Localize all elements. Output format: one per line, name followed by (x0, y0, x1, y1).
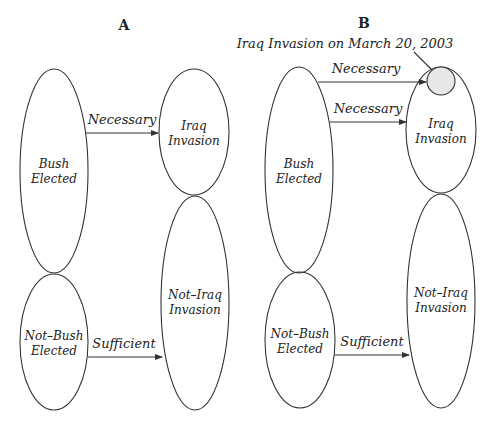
not-iraq-invasion-label-line1: Not–Iraq (167, 288, 222, 302)
not-bush-elected-b-label-line1: Not–Bush (270, 327, 330, 341)
node-not-bush-elected-b: Not–Bush Elected (265, 272, 335, 408)
march-20-2003-circle (427, 67, 455, 95)
arrow-sufficient: Sufficient (88, 336, 162, 357)
panel-a: A Bush Elected Not–Bush Elected Iraq Inv… (20, 17, 229, 410)
bush-elected-label-line2: Elected (30, 172, 77, 186)
not-bush-elected-label-line1: Not–Bush (24, 329, 84, 343)
iraq-invasion-label-line1: Iraq (180, 119, 207, 133)
panel-a-title: A (118, 17, 131, 33)
not-bush-elected-label-line2: Elected (30, 344, 77, 358)
arrow-sufficient-b-label: Sufficient (340, 334, 404, 349)
node-iraq-invasion: Iraq Invasion (159, 69, 229, 195)
node-not-bush-elected: Not–Bush Elected (20, 274, 88, 410)
annotation-label: Iraq Invasion on March 20, 2003 (236, 36, 454, 51)
bush-elected-label-line1: Bush (38, 157, 69, 171)
bush-elected-b-label-line2: Elected (275, 172, 322, 186)
arrow-sufficient-label: Sufficient (92, 336, 156, 351)
bush-elected-ellipse (20, 69, 88, 273)
bush-elected-b-label-line1: Bush (283, 157, 314, 171)
not-iraq-invasion-label-line2: Invasion (168, 303, 220, 317)
arrow-necessary-label: Necessary (87, 112, 157, 127)
node-bush-elected-b: Bush Elected (265, 67, 333, 273)
panel-b-title: B (358, 15, 370, 31)
arrow-necessary: Necessary (86, 112, 158, 133)
iraq-invasion-b-label-line1: Iraq (427, 117, 454, 131)
not-bush-elected-b-label-line2: Elected (276, 342, 323, 356)
arrow-necessary-date: Necessary (318, 61, 426, 82)
node-not-iraq-invasion-b: Not–Iraq Invasion (407, 194, 475, 408)
arrow-necessary-b-label: Necessary (333, 101, 403, 116)
not-iraq-invasion-b-label-line2: Invasion (414, 301, 466, 315)
arrow-necessary-b: Necessary (330, 101, 406, 122)
iraq-invasion-label-line2: Invasion (167, 134, 219, 148)
diagram-canvas: A Bush Elected Not–Bush Elected Iraq Inv… (0, 0, 490, 428)
annotation-leader-line (414, 52, 432, 70)
arrow-necessary-date-label: Necessary (331, 61, 401, 76)
iraq-invasion-b-label-line2: Invasion (414, 132, 466, 146)
not-iraq-invasion-b-label-line1: Not–Iraq (413, 286, 468, 300)
node-iraq-invasion-b: Iraq Invasion (406, 67, 476, 193)
panel-b: B Iraq Invasion on March 20, 2003 Bush E… (236, 15, 476, 408)
node-not-iraq-invasion: Not–Iraq Invasion (161, 196, 229, 410)
node-bush-elected: Bush Elected (20, 69, 88, 273)
arrow-sufficient-b: Sufficient (335, 334, 409, 355)
